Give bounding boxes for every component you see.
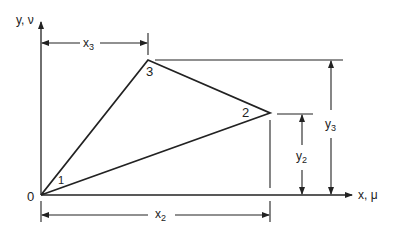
node-3-label: 3 xyxy=(146,65,153,78)
triangle-diagram xyxy=(0,0,399,238)
x-axis-label: x, μ xyxy=(358,189,378,201)
origin-label: 0 xyxy=(27,190,34,203)
node-1-label: 1 xyxy=(58,175,64,186)
x3-dimension-label: x3 xyxy=(83,37,94,52)
node-2-label: 2 xyxy=(242,106,249,119)
x2-dimension-label: x2 xyxy=(155,208,166,223)
triangle-element xyxy=(41,60,270,195)
y2-dimension-label: y2 xyxy=(296,150,307,165)
y3-dimension-label: y3 xyxy=(325,118,336,133)
y-axis-label: y, ν xyxy=(16,14,34,26)
